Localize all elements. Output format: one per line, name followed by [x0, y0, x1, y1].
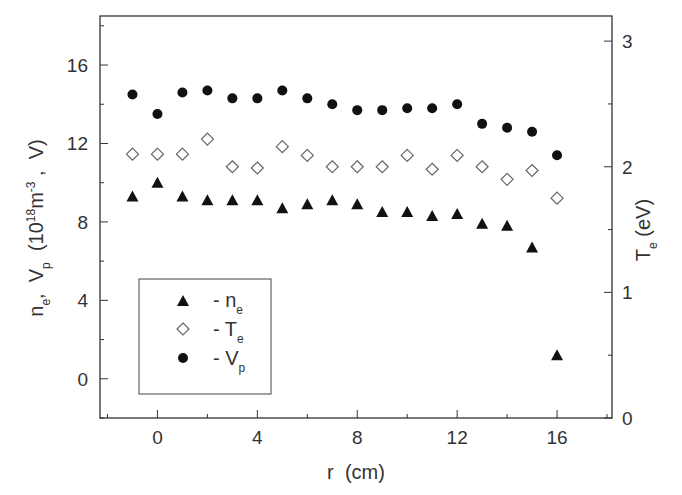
y-right-tick-label: 3: [622, 31, 633, 52]
data-point: [326, 161, 338, 173]
data-point: [452, 99, 462, 109]
data-point: [527, 127, 537, 137]
data-point: [177, 87, 187, 97]
data-point: [377, 105, 387, 115]
data-point: [427, 103, 437, 113]
data-point: [302, 93, 312, 103]
data-point: [426, 163, 438, 175]
chart: 048121604812160123 - ne- Te- Vp r (cm) n…: [0, 0, 682, 495]
data-point: [301, 149, 313, 161]
data-point: [226, 161, 238, 173]
data-point: [252, 93, 262, 103]
y-left-tick-label: 0: [77, 369, 88, 390]
legend-box: [139, 279, 271, 394]
data-point: [251, 162, 263, 174]
data-point: [251, 194, 263, 205]
data-point: [227, 93, 237, 103]
y-right-tick-label: 0: [622, 408, 633, 429]
x-tick-label: 12: [447, 427, 468, 448]
data-point: [126, 148, 138, 160]
data-point: [451, 149, 463, 161]
data-point: [376, 206, 388, 217]
data-point: [401, 149, 413, 161]
y-right-tick-label: 1: [622, 282, 633, 303]
data-point: [152, 109, 162, 119]
data-point: [226, 194, 238, 205]
data-point: [151, 177, 163, 188]
data-point: [126, 190, 138, 201]
data-point: [301, 198, 313, 209]
data-point: [502, 123, 512, 133]
data-point: [277, 86, 287, 96]
data-point: [127, 89, 137, 99]
data-point: [551, 192, 563, 204]
data-point: [276, 202, 288, 213]
x-tick-label: 0: [152, 427, 163, 448]
data-point: [476, 161, 488, 173]
data-point: [201, 194, 213, 205]
data-point: [476, 218, 488, 229]
data-point: [401, 206, 413, 217]
data-point: [451, 208, 463, 219]
series-v-p: [127, 86, 562, 161]
data-point: [351, 161, 363, 173]
y-right-tick-label: 2: [622, 157, 633, 178]
data-point: [402, 103, 412, 113]
data-point: [326, 194, 338, 205]
y-axis-left-label: ne, Vp (1018m-3 , V): [24, 139, 53, 316]
x-tick-label: 16: [546, 427, 567, 448]
data-point: [352, 105, 362, 115]
data-point: [201, 133, 213, 145]
x-axis-label: r (cm): [327, 461, 385, 483]
data-point: [376, 161, 388, 173]
y-left-tick-label: 16: [67, 55, 88, 76]
series-t-e: [126, 133, 563, 204]
legend: - ne- Te- Vp: [139, 279, 271, 394]
legend-marker-v-p: [178, 353, 188, 363]
x-tick-label: 8: [352, 427, 363, 448]
data-point: [526, 241, 538, 252]
data-point: [327, 99, 337, 109]
data-point: [176, 148, 188, 160]
y-left-tick-label: 8: [77, 212, 88, 233]
data-point: [151, 148, 163, 160]
x-tick-label: 4: [252, 427, 263, 448]
data-point: [202, 86, 212, 96]
y-left-tick-label: 4: [77, 290, 88, 311]
data-point: [552, 150, 562, 160]
data-point: [526, 165, 538, 177]
y-left-tick-label: 12: [67, 133, 88, 154]
data-point: [351, 198, 363, 209]
data-point: [477, 119, 487, 129]
data-point: [276, 141, 288, 153]
data-point: [176, 190, 188, 201]
data-point: [551, 349, 563, 360]
data-point: [501, 173, 513, 185]
data-point: [426, 210, 438, 221]
data-point: [501, 220, 513, 231]
y-axis-right-label: Te (eV): [632, 199, 660, 261]
